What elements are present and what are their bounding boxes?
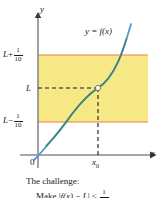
y-tick-upper-fraction: 110	[14, 47, 23, 63]
y-axis-label: y	[40, 5, 44, 14]
y-tick-label-lower: L−110	[3, 113, 23, 129]
formula-relation: <	[89, 191, 99, 198]
y-tick-label-upper: L+110	[3, 47, 23, 63]
caption-block: The challenge: Make |f(x) − L| < 110	[0, 176, 162, 198]
y-tick-lower-numerator: 1	[14, 113, 23, 120]
formula-fx: f(x)	[61, 191, 74, 198]
formula-numerator: 1	[100, 189, 109, 196]
curve-equation-label: y = f(x)	[85, 27, 112, 36]
y-tick-upper-operator: +	[8, 49, 13, 59]
limit-point-marker	[95, 85, 100, 90]
x-axis-label: x	[151, 149, 155, 158]
y-tick-label-center: L	[26, 84, 31, 93]
formula-minus: −	[73, 191, 83, 198]
y-tick-lower-operator: −	[8, 115, 13, 125]
y-tick-lower-denominator: 10	[14, 122, 23, 129]
caption-formula: Make |f(x) − L| < 110	[36, 189, 109, 198]
formula-fraction: 110	[100, 189, 109, 198]
limit-definition-figure: L+110 L L−110 y x 0 x0 y = f(x) The chal…	[0, 0, 162, 198]
origin-label: 0	[30, 158, 35, 167]
y-tick-upper-numerator: 1	[14, 47, 23, 54]
y-tick-lower-fraction: 110	[14, 113, 23, 129]
x-tick-x0-subscript: 0	[96, 163, 99, 169]
caption-title: The challenge:	[26, 176, 79, 186]
y-tick-upper-denominator: 10	[14, 56, 23, 63]
formula-prefix: Make	[36, 191, 59, 198]
plot-canvas	[0, 0, 162, 198]
x-tick-label-x0: x0	[92, 158, 99, 169]
